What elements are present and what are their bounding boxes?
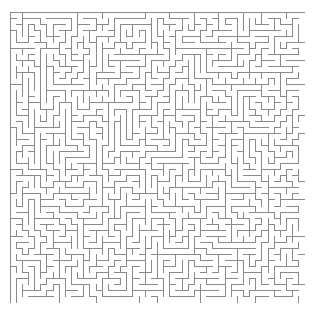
maze-figure <box>0 0 319 310</box>
maze-canvas <box>10 12 305 303</box>
maze-grid <box>10 12 305 303</box>
